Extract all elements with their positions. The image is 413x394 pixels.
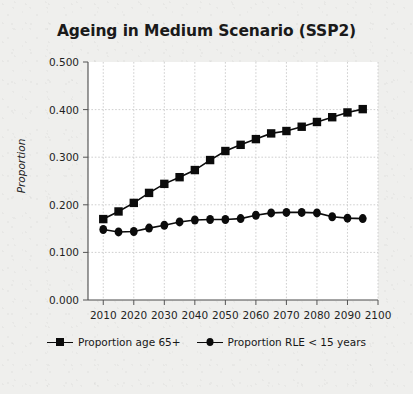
svg-text:2080: 2080 [304, 309, 331, 321]
svg-text:2100: 2100 [365, 309, 392, 321]
legend-item-age65: Proportion age 65+ [47, 336, 181, 348]
svg-text:2070: 2070 [273, 309, 300, 321]
legend-label-rle: Proportion RLE < 15 years [228, 336, 366, 348]
y-tick-labels: 0.0000.1000.2000.3000.4000.500 [49, 56, 79, 306]
svg-text:0.500: 0.500 [49, 56, 79, 68]
svg-text:2030: 2030 [151, 309, 178, 321]
legend: Proportion age 65+ Proportion RLE < 15 y… [0, 336, 413, 348]
svg-text:2050: 2050 [212, 309, 239, 321]
figure-container: Ageing in Medium Scenario (SSP2) Proport… [0, 0, 413, 394]
svg-text:0.200: 0.200 [49, 199, 79, 211]
svg-text:2010: 2010 [90, 309, 117, 321]
plot-background [88, 62, 378, 300]
diamond-marker-icon [197, 336, 223, 348]
legend-item-rle: Proportion RLE < 15 years [197, 336, 366, 348]
square-marker-icon [47, 336, 73, 348]
svg-text:2060: 2060 [243, 309, 270, 321]
svg-text:0.300: 0.300 [49, 151, 79, 163]
svg-text:2040: 2040 [181, 309, 208, 321]
svg-text:0.400: 0.400 [49, 104, 79, 116]
svg-text:2090: 2090 [334, 309, 361, 321]
svg-text:0.000: 0.000 [49, 294, 79, 306]
x-tick-labels: 2010202020302040205020602070208020902100 [90, 309, 391, 321]
svg-text:0.100: 0.100 [49, 246, 79, 258]
plot-canvas: 0.0000.1000.2000.3000.4000.500 201020202… [0, 0, 413, 394]
legend-label-age65: Proportion age 65+ [78, 336, 181, 348]
svg-text:2020: 2020 [120, 309, 147, 321]
